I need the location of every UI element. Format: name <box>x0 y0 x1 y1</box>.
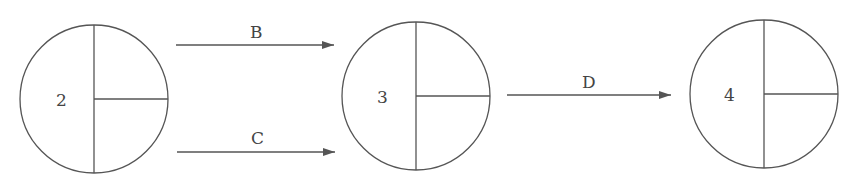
node-3 <box>342 22 490 170</box>
node-2-label: 2 <box>56 92 67 109</box>
node-2 <box>20 25 168 173</box>
edge-b-label: B <box>250 24 263 41</box>
edge-d-label: D <box>582 74 596 91</box>
node-4-label: 4 <box>724 87 735 104</box>
node-4 <box>690 20 838 168</box>
node-3-label: 3 <box>377 89 388 106</box>
edge-c-label: C <box>251 130 264 147</box>
